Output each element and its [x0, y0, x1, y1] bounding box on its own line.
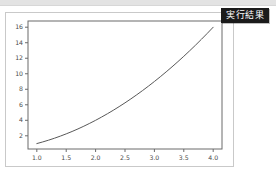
top-gray-band: [0, 0, 276, 6]
x-tick-label: 1.5: [61, 154, 71, 161]
x-tick-label: 2.5: [120, 154, 130, 161]
y-tick-label: 12: [15, 54, 23, 61]
figure-panel: 2468101214161.01.52.02.53.03.54.0: [5, 12, 234, 167]
x-tick-label: 1.0: [32, 154, 42, 161]
y-tick-label: 10: [15, 70, 23, 77]
x-tick-label: 4.0: [208, 154, 218, 161]
plot-axes-frame: [28, 21, 222, 149]
x-tick-label: 3.0: [149, 154, 159, 161]
x-tick-label: 3.5: [179, 154, 189, 161]
y-tick-label: 4: [19, 116, 23, 123]
line-chart: 2468101214161.01.52.02.53.03.54.0: [6, 13, 233, 166]
execution-result-badge: 実行結果: [221, 8, 269, 23]
x-tick-label: 2.0: [91, 154, 101, 161]
y-tick-label: 16: [15, 23, 23, 30]
y-tick-label: 6: [19, 101, 23, 108]
y-tick-label: 14: [15, 39, 23, 46]
data-series-line: [37, 27, 213, 143]
y-tick-label: 8: [19, 85, 23, 92]
y-tick-label: 2: [19, 132, 23, 139]
